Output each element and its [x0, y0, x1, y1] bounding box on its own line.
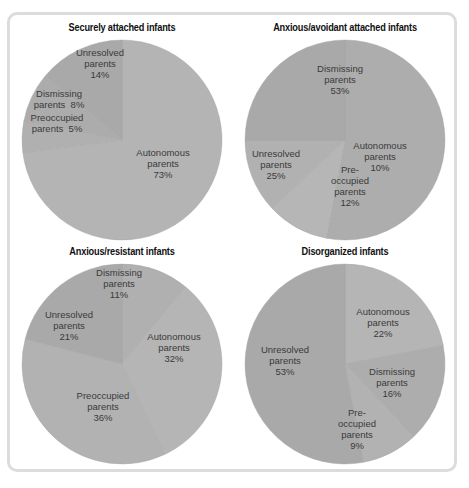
slice-label: Dismissing parents 16%	[369, 366, 415, 399]
slice-label: Preoccupied parents 5%	[31, 112, 84, 134]
slice-label: Unresolved parents 21%	[45, 309, 93, 342]
pie-chart	[230, 16, 460, 246]
slice-label: Unresolved parents 53%	[261, 344, 309, 377]
pie-panel-disorganized: Disorganized infants Autonomous parents …	[230, 240, 460, 470]
slice-label: Autonomous parents 73%	[136, 147, 189, 180]
slice-label: Dismissing parents 53%	[317, 63, 363, 96]
slice-label: Pre- occupied parents 12%	[331, 164, 369, 208]
slice-label: Dismissing parents 8%	[34, 88, 85, 110]
slice-label: Autonomous parents 22%	[356, 306, 409, 339]
slice-label: Pre- occupied parents 9%	[338, 407, 376, 451]
slice-label: Unresolved parents 14%	[76, 47, 124, 80]
slice-label: Dismissing parents 11%	[96, 267, 142, 300]
pie-panel-anxious-resistant: Anxious/resistant infants Dismissing par…	[7, 240, 237, 470]
slice-label: Preoccupied parents 36%	[77, 390, 130, 423]
pie-panel-anxious-avoidant: Anxious/avoidant attached infants Dismis…	[230, 16, 460, 246]
pie-panel-securely-attached: Securely attached infants Unresolved par…	[7, 16, 237, 246]
slice-label: Unresolved parents 25%	[252, 148, 300, 181]
slice-label: Autonomous parents 32%	[147, 331, 200, 364]
